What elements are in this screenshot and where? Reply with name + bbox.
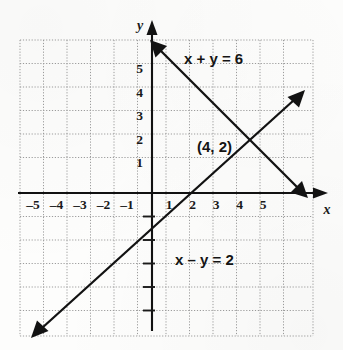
x-tick-label: –1 bbox=[119, 197, 134, 212]
y-tick-label: 1 bbox=[136, 155, 143, 170]
x-tick-label: –2 bbox=[96, 197, 111, 212]
y-axis-label: y bbox=[135, 18, 144, 33]
x-axis-label: x bbox=[323, 202, 331, 217]
y-tick-label: 3 bbox=[136, 108, 143, 123]
x-tick-label: –3 bbox=[72, 197, 87, 212]
line-x-minus-y-equals-2 bbox=[31, 90, 305, 338]
graph-figure: –5 –4 –3 –2 –1 1 2 3 4 5 5 4 3 2 1 x y x… bbox=[0, 0, 343, 350]
y-tick-label: 2 bbox=[136, 132, 143, 147]
equation-label-line2: x – y = 2 bbox=[175, 251, 234, 268]
y-tick-label: 5 bbox=[136, 61, 143, 76]
y-tick-label: 4 bbox=[136, 85, 143, 100]
x-tick-label: –4 bbox=[49, 197, 64, 212]
x-tick-label: 5 bbox=[260, 197, 267, 212]
x-axis-arrow-icon bbox=[313, 188, 328, 199]
x-tick-label: 2 bbox=[189, 197, 196, 212]
x-tick-label: 4 bbox=[236, 197, 243, 212]
intersection-point-label: (4, 2) bbox=[197, 138, 232, 155]
coordinate-plane-svg: –5 –4 –3 –2 –1 1 2 3 4 5 5 4 3 2 1 x y x… bbox=[0, 0, 343, 350]
x-axis bbox=[18, 188, 328, 199]
equation-label-line1: x + y = 6 bbox=[184, 50, 243, 67]
y-axis bbox=[147, 20, 158, 331]
x-tick-label: 3 bbox=[213, 197, 220, 212]
x-tick-labels: –5 –4 –3 –2 –1 1 2 3 4 5 bbox=[25, 197, 266, 212]
y-axis-arrow-icon bbox=[147, 20, 158, 35]
grid-lines bbox=[20, 40, 313, 336]
x-tick-label: –5 bbox=[25, 197, 40, 212]
x-tick-label: 1 bbox=[166, 197, 173, 212]
